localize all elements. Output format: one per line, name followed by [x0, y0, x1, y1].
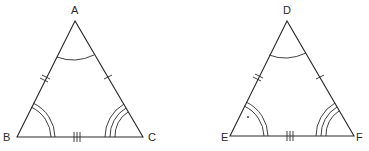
- triangle-abc: A B C: [3, 4, 156, 143]
- angle-e-dot: [247, 116, 249, 118]
- vertex-label-f: F: [356, 131, 363, 143]
- vertex-label-a: A: [71, 4, 79, 16]
- triangle-def: D E F: [221, 4, 363, 143]
- vertex-label-b: B: [3, 131, 10, 143]
- angle-mark-b-2: [33, 103, 55, 137]
- angle-mark-e-1: [244, 106, 264, 136]
- triangle-def-outline: [230, 21, 354, 136]
- angle-mark-a: [57, 55, 94, 60]
- angle-mark-d: [269, 53, 306, 58]
- triangle-abc-outline: [17, 21, 143, 137]
- vertex-label-e: E: [221, 131, 228, 143]
- vertex-label-c: C: [148, 131, 156, 143]
- vertex-label-d: D: [283, 4, 291, 16]
- angle-mark-e-2: [246, 102, 268, 136]
- congruent-triangles-diagram: A B C D E F: [0, 0, 369, 151]
- side-mark-ac: [104, 75, 112, 79]
- angle-mark-b-1: [31, 107, 51, 137]
